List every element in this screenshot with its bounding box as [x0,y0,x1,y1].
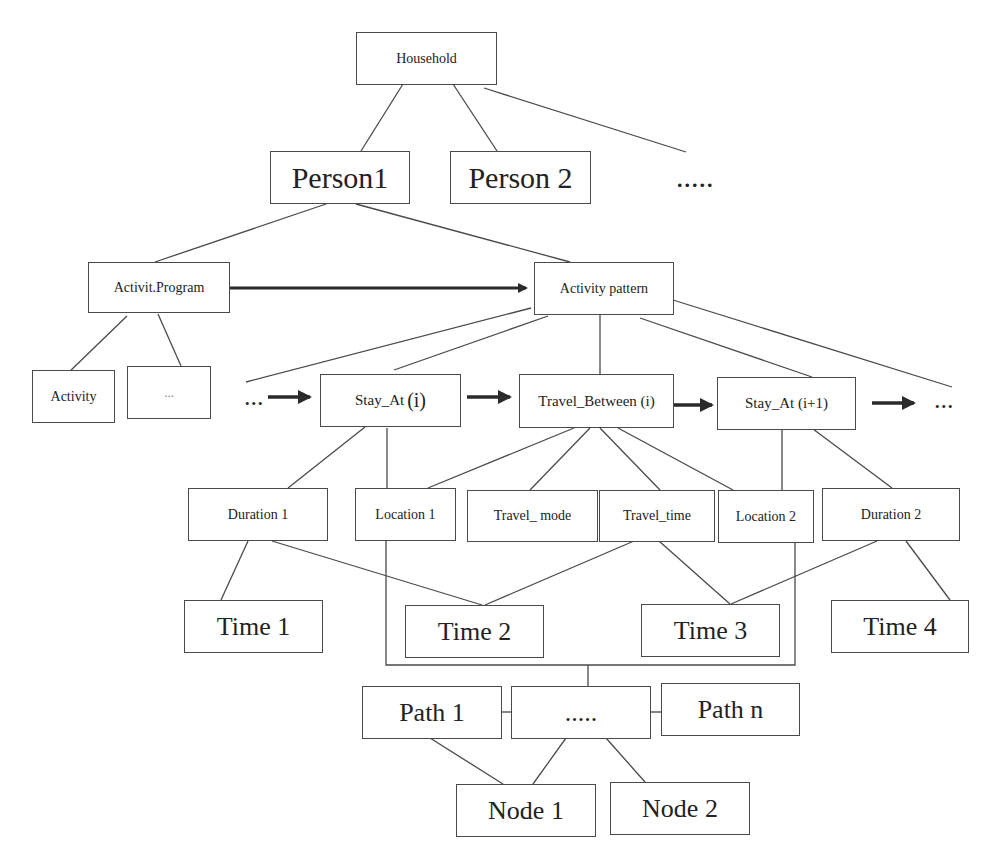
activity-more-label: ... [164,385,174,401]
sequence-start-ellipsis: ... [244,382,264,412]
path1-label: Path 1 [399,698,465,728]
time2-box: Time 2 [405,605,544,658]
stay-at-i-label: Stay_At [355,392,404,409]
sequence-end-ellipsis: ... [934,385,954,415]
duration1-label: Duration 1 [228,507,288,523]
path-more-box: ..... [511,686,651,739]
node1-box: Node 1 [456,784,596,837]
activity-program-label: Activit.Program [114,280,205,296]
path1-box: Path 1 [362,686,502,739]
activity-more-box: ... [127,366,211,419]
time3-box: Time 3 [641,604,780,657]
duration2-label: Duration 2 [861,507,921,523]
time1-box: Time 1 [184,600,323,653]
stay-at-i-box: Stay_At (i) [320,374,461,427]
node1-label: Node 1 [488,796,564,826]
path-n-box: Path n [661,683,800,736]
travel-mode-box: Travel_ mode [467,490,598,542]
node2-label: Node 2 [642,794,718,824]
person1-box: Person1 [270,151,410,204]
stay-at-i-index: (i) [407,389,426,412]
activity-label: Activity [51,389,97,405]
time2-label: Time 2 [438,617,511,647]
household-label: Household [396,51,457,67]
activity-box: Activity [32,370,115,423]
location1-box: Location 1 [355,488,456,541]
hierarchy-diagram: Household Person1 Person 2 ..... Activit… [0,0,992,864]
activity-pattern-label: Activity pattern [560,281,648,297]
path-more-label: ..... [565,698,598,728]
activity-program-box: Activit.Program [88,262,230,313]
node2-box: Node 2 [610,782,750,835]
location1-label: Location 1 [375,507,435,523]
travel-time-label: Travel_time [623,508,691,524]
person2-box: Person 2 [450,151,591,204]
more-persons-ellipsis: ..... [676,160,714,194]
time3-label: Time 3 [674,616,747,646]
location2-label: Location 2 [736,509,796,525]
time4-label: Time 4 [863,612,936,642]
time1-label: Time 1 [217,612,290,642]
duration2-box: Duration 2 [822,488,960,541]
travel-between-i-box: Travel_Between (i) [519,374,674,428]
time4-box: Time 4 [831,600,969,653]
person1-label: Person1 [292,161,389,195]
stay-at-i1-label: Stay_At (i+1) [745,395,828,412]
activity-pattern-box: Activity pattern [534,262,674,315]
travel-mode-label: Travel_ mode [494,508,572,524]
stay-at-i1-box: Stay_At (i+1) [717,377,856,430]
location2-box: Location 2 [718,490,814,543]
travel-time-box: Travel_time [599,490,715,542]
duration1-box: Duration 1 [188,488,328,541]
travel-between-i-label: Travel_Between (i) [538,393,655,410]
person2-label: Person 2 [468,161,572,195]
household-box: Household [356,32,497,85]
path-n-label: Path n [698,695,764,725]
